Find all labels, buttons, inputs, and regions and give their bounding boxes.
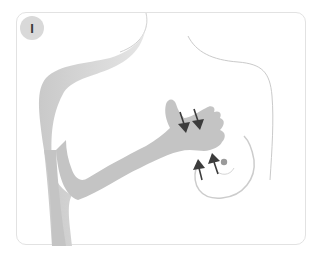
nipple-dot xyxy=(221,159,227,165)
nipple-arc xyxy=(216,168,234,174)
body-outline-right xyxy=(188,36,273,180)
self-exam-illustration xyxy=(0,0,324,262)
step-number-badge: I xyxy=(20,16,44,40)
arrow-up-icon xyxy=(208,153,220,174)
